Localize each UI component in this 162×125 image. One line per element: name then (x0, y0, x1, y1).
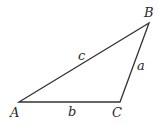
side-label-a: a (137, 58, 145, 73)
vertex-label-b: B (143, 5, 154, 20)
side-label-c: c (78, 48, 86, 63)
vertex-label-a: A (9, 105, 19, 120)
vertex-label-c: C (112, 105, 122, 120)
triangle-diagram: A B C a b c (0, 0, 162, 125)
side-label-b: b (68, 104, 76, 119)
